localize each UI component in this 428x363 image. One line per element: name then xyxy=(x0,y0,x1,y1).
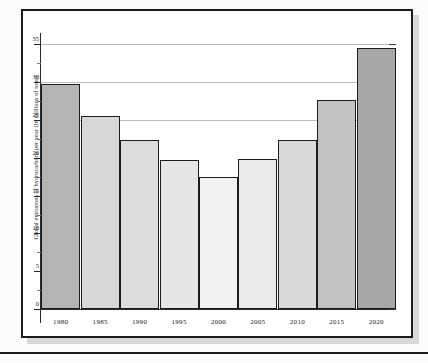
plot-area: 05101520253035 Global emissions of hydro… xyxy=(23,11,411,336)
y-tick xyxy=(34,309,41,310)
x-tick-label: 2020 xyxy=(351,318,401,326)
bar xyxy=(160,160,199,309)
bar-series xyxy=(41,33,396,309)
y-tick-right xyxy=(389,309,396,310)
figure-page: 05101520253035 Global emissions of hydro… xyxy=(0,0,428,363)
bar xyxy=(317,100,356,309)
bar xyxy=(41,84,80,309)
y-tick xyxy=(34,44,41,45)
y-tick-label: 35 xyxy=(25,35,39,42)
bar xyxy=(357,48,396,309)
bar xyxy=(278,140,317,309)
bar xyxy=(120,140,159,309)
x-axis-tick-labels: 198019851990199520002005201020152020 xyxy=(41,314,396,330)
bar xyxy=(199,177,238,309)
bar xyxy=(238,159,277,309)
y-tick-label: 0 xyxy=(25,300,39,307)
bar xyxy=(81,116,120,309)
page-bottom-rule xyxy=(0,352,428,354)
x-axis-line xyxy=(40,309,396,310)
y-tick-label: 5 xyxy=(25,262,39,269)
y-tick xyxy=(34,271,41,272)
chart-frame: 05101520253035 Global emissions of hydro… xyxy=(21,9,413,338)
y-axis-title: Global emissions of hydrocarbons per yea… xyxy=(32,90,39,240)
